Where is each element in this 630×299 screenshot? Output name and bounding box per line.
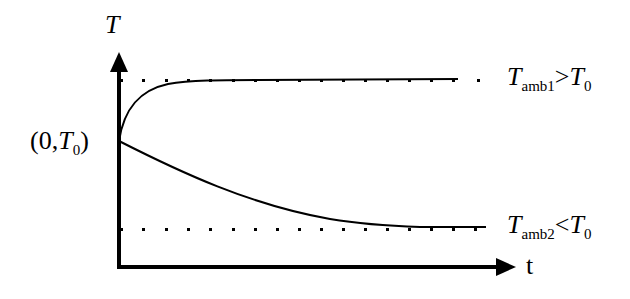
upper-label-rhs-var: T: [569, 62, 583, 91]
lower-label-rhs-var: T: [569, 210, 583, 239]
origin-label-close: ): [80, 126, 89, 155]
x-axis-label: t: [526, 253, 533, 279]
origin-label-open: (0,: [30, 126, 58, 155]
y-axis-arrowhead-icon: [110, 52, 128, 72]
cooling-curve: [119, 141, 486, 227]
origin-label-var: T: [58, 126, 72, 155]
lower-label-rhs-sub: 0: [584, 226, 592, 242]
lower-label-relation: <: [555, 210, 570, 239]
origin-label: (0,T0): [30, 128, 89, 158]
lower-label-var: T: [507, 210, 521, 239]
lower-label-sub: amb2: [521, 226, 554, 242]
upper-label-sub: amb1: [521, 78, 554, 94]
temperature-time-diagram: [0, 0, 630, 299]
upper-label-relation: >: [555, 62, 570, 91]
upper-label-rhs-sub: 0: [584, 78, 592, 94]
lower-asymptote-label: Tamb2<T0: [507, 212, 591, 242]
upper-asymptote-label: Tamb1>T0: [507, 64, 591, 94]
y-axis-label: T: [105, 12, 119, 38]
x-axis-arrowhead-icon: [496, 258, 516, 276]
upper-label-var: T: [507, 62, 521, 91]
heating-curve: [119, 79, 458, 141]
lower-asymptote-dotted-line: [120, 228, 477, 231]
